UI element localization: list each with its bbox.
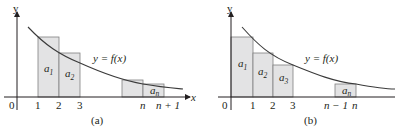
y-axis-label-b: y <box>227 2 233 14</box>
tick-n-b: n <box>352 99 358 111</box>
rect-n <box>122 80 143 97</box>
tick-n-plus-1: n + 1 <box>156 99 180 111</box>
origin-label: 0 <box>9 99 15 111</box>
tick-2-b: 2 <box>270 99 276 111</box>
tick-2: 2 <box>56 99 62 111</box>
integral-test-diagram: y x 0 1 2 3 n n + 1 a1 a2 an y = f(x) (a… <box>0 0 395 131</box>
caption-a: (a) <box>91 114 104 127</box>
y-axis-label: y <box>13 2 19 14</box>
curve-label-b: y = f(x) <box>304 52 338 65</box>
curve-label: y = f(x) <box>92 52 126 65</box>
tick-1-b: 1 <box>250 99 256 111</box>
panel-a: y x 0 1 2 3 n n + 1 a1 a2 an y = f(x) (a… <box>4 2 196 127</box>
origin-label-b: 0 <box>222 99 228 111</box>
panel-b: y 0 1 2 3 n − 1 n a1 a2 a3 an y = f(x) (… <box>218 2 395 127</box>
tick-n-minus-1: n − 1 <box>324 99 348 111</box>
tick-1: 1 <box>35 99 41 111</box>
tick-n: n <box>140 99 146 111</box>
caption-b: (b) <box>304 114 317 127</box>
tick-3: 3 <box>77 99 83 111</box>
x-axis-label: x <box>190 91 196 103</box>
tick-3-b: 3 <box>290 99 296 111</box>
